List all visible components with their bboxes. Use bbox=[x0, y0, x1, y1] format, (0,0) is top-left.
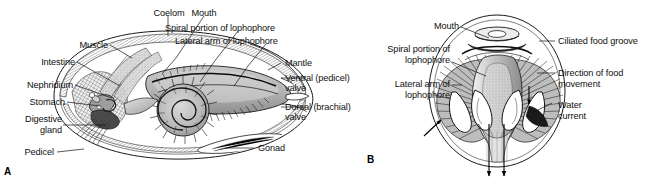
label-direction-of-food-movement-line1: Direction of food bbox=[558, 68, 623, 78]
label-digestive-gland-line2: gland bbox=[10, 125, 62, 135]
label-digestive-gland-line1: Digestive bbox=[10, 114, 62, 124]
label-intestine: Intestine bbox=[20, 57, 75, 67]
label-ventral-pedicel-valve-line2: valve bbox=[285, 83, 306, 93]
label-water-current-line2: current bbox=[558, 111, 586, 121]
label-water-current-line1: Water bbox=[558, 100, 582, 110]
label-direction-of-food-movement-line2: movement bbox=[558, 79, 600, 89]
label-dorsal-brachial-valve-line1: Dorsal (brachial) bbox=[285, 102, 351, 112]
label-mouth: Mouth bbox=[180, 8, 228, 18]
label-lateral-arm-of-lophophore-b-line2: lophophore bbox=[366, 90, 450, 100]
label-mouth-b: Mouth bbox=[421, 21, 459, 31]
label-dorsal-brachial-valve-line2: valve bbox=[285, 112, 306, 122]
label-pedicel: Pedicel bbox=[12, 147, 54, 157]
label-spiral-portion-of-lophophore-b-line1: Spiral portion of bbox=[366, 44, 450, 54]
label-lateral-arm-of-lophophore-b-line1: Lateral arm of bbox=[366, 79, 450, 89]
label-spiral-portion-of-lophophore: Spiral portion of lophophore bbox=[165, 23, 275, 33]
figure-canvas: Coelom Mouth Spiral portion of lophophor… bbox=[0, 0, 654, 184]
label-nephridium: Nephridium bbox=[7, 80, 73, 90]
label-muscle: Muscle bbox=[36, 40, 108, 50]
label-ciliated-food-groove: Ciliated food groove bbox=[558, 36, 638, 46]
label-stomach: Stomach bbox=[12, 97, 65, 107]
panel-letter-b: B bbox=[367, 154, 374, 165]
label-ventral-pedicel-valve-line1: Ventral (pedicel) bbox=[285, 73, 350, 83]
label-mantle: Mantle bbox=[285, 58, 312, 68]
panel-letter-a: A bbox=[4, 166, 11, 177]
label-spiral-portion-of-lophophore-b-line2: lophophore bbox=[366, 55, 450, 65]
label-lateral-arm-of-lophophore: Lateral arm of lophophore bbox=[175, 36, 278, 46]
label-gonad: Gonad bbox=[258, 143, 285, 153]
figure-illustration bbox=[0, 0, 654, 184]
